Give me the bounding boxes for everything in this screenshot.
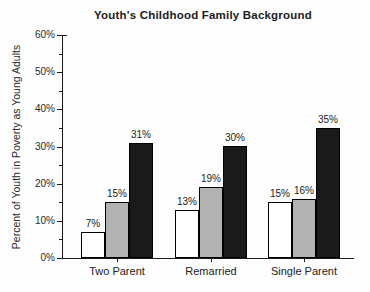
x-axis-line xyxy=(62,258,354,259)
y-tick xyxy=(57,184,62,185)
y-tick xyxy=(57,109,62,110)
category-label: Two Parent xyxy=(72,265,162,277)
x-group-tick xyxy=(211,259,212,262)
y-tick-label: 30% xyxy=(25,142,55,152)
bar-black-bar-series-1 xyxy=(129,143,153,258)
bar-black-bar-series-2 xyxy=(223,146,247,258)
y-tick-label: 20% xyxy=(25,179,55,189)
y-axis-top-cap xyxy=(62,35,67,36)
bar-white-bar-series-3 xyxy=(268,202,292,258)
bar-gray-bar-series-1 xyxy=(105,202,129,258)
y-tick-label: 40% xyxy=(25,104,55,114)
bar-gray-bar-series-3 xyxy=(292,199,316,258)
y-tick-label: 50% xyxy=(25,67,55,77)
bar-gray-bar-series-2 xyxy=(199,187,223,258)
category-label: Remarried xyxy=(166,265,256,277)
x-group-tick xyxy=(304,259,305,262)
bar-value-label: 30% xyxy=(215,133,255,143)
category-label: Single Parent xyxy=(259,265,349,277)
bar-chart: Youth's Childhood Family Background Perc… xyxy=(0,0,370,292)
y-tick xyxy=(57,35,62,36)
y-tick-label: 60% xyxy=(25,30,55,40)
y-tick xyxy=(59,54,62,55)
bar-white-bar-series-1 xyxy=(81,232,105,258)
y-tick xyxy=(59,91,62,92)
y-tick xyxy=(57,221,62,222)
y-tick xyxy=(57,147,62,148)
y-tick xyxy=(57,258,62,259)
y-tick xyxy=(59,128,62,129)
bar-value-label: 35% xyxy=(308,115,348,125)
y-tick xyxy=(59,165,62,166)
chart-title: Youth's Childhood Family Background xyxy=(40,9,366,21)
y-tick xyxy=(59,202,62,203)
y-axis-title: Percent of Youth in Poverty as Young Adu… xyxy=(10,34,24,260)
y-tick xyxy=(59,239,62,240)
y-tick xyxy=(57,72,62,73)
bar-value-label: 31% xyxy=(121,130,161,140)
y-tick-label: 0% xyxy=(25,253,55,263)
bar-black-bar-series-3 xyxy=(316,128,340,258)
y-tick-label: 10% xyxy=(25,216,55,226)
y-axis-line xyxy=(62,35,63,259)
bar-white-bar-series-2 xyxy=(175,210,199,258)
x-group-tick xyxy=(117,259,118,262)
